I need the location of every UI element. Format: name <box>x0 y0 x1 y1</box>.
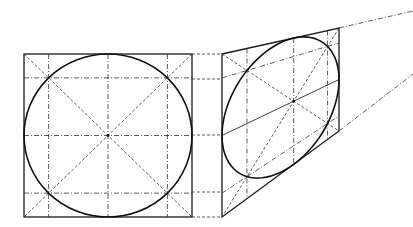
persp-diagonal-line <box>222 54 339 131</box>
center-point <box>107 134 110 137</box>
persp-diagonal-line <box>222 28 339 217</box>
vanishing-line <box>339 74 413 131</box>
vanishing-line <box>339 11 413 28</box>
persp-center-horizontal-line <box>222 80 339 136</box>
perspective-view-quad <box>222 28 339 217</box>
vanishing-lines <box>339 11 413 131</box>
projection-lines <box>192 54 222 217</box>
perspective-circle-drawing <box>0 0 413 227</box>
persp-center-point <box>292 100 295 103</box>
persp-inner-horizontal-line <box>222 43 339 78</box>
diagram-canvas <box>0 0 413 227</box>
front-view-square <box>24 54 192 217</box>
